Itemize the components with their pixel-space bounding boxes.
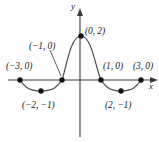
y-axis-label: y — [71, 2, 75, 11]
point-label-neg1-0: (−1, 0) — [29, 42, 55, 52]
y-axis-arrowhead — [77, 8, 83, 16]
point-label-neg3-0: (−3, 0) — [6, 62, 32, 72]
point-label-1-0: (1, 0) — [103, 62, 123, 72]
point-0-2 — [78, 33, 83, 38]
point-label-2-neg1: (2, −1) — [105, 101, 131, 111]
point-1-0 — [98, 77, 103, 82]
point-label-3-0: (3, 0) — [133, 62, 153, 72]
point-neg3-0 — [17, 77, 22, 82]
point-neg2-neg1 — [38, 88, 43, 93]
point-2-neg1 — [118, 88, 123, 93]
leader-line-neg1-0 — [50, 50, 61, 76]
x-axis-label: x — [149, 82, 153, 91]
point-neg1-0 — [59, 77, 64, 82]
point-label-neg2-neg1: (−2, −1) — [22, 101, 55, 111]
point-label-0-2: (0, 2) — [85, 27, 105, 37]
point-3-0 — [138, 77, 143, 82]
graph-figure: y x (−3, 0) (−1, 0) (0, 2) (1, 0) (3, 0)… — [0, 0, 159, 142]
